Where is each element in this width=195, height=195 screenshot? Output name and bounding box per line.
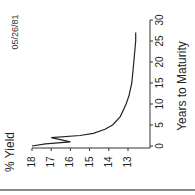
- chart-date-title: 05/26/81: [10, 14, 20, 49]
- y-tick-label: 18: [26, 156, 37, 168]
- x-tick-label: 25: [154, 35, 165, 47]
- x-tick-label: 10: [154, 98, 165, 110]
- x-tick-label: 15: [154, 77, 165, 89]
- x-axis-title: Years to Maturity: [175, 41, 189, 131]
- x-tick-label: 5: [154, 122, 165, 128]
- x-tick-label: 0: [154, 143, 165, 149]
- axes: 181716151413051015202530: [26, 14, 165, 168]
- x-tick-label: 20: [154, 56, 165, 68]
- y-tick-label: 13: [122, 156, 133, 168]
- y-tick-label: 16: [64, 156, 75, 168]
- x-tick-label: 30: [154, 14, 165, 26]
- y-tick-label: 17: [45, 156, 56, 168]
- yield-curve-chart: 181716151413051015202530 05/26/81 % Yiel…: [0, 0, 195, 195]
- y-tick-label: 15: [84, 156, 95, 168]
- yield-curve-line: [32, 33, 136, 146]
- bottom-divider: [0, 189, 195, 191]
- y-axis-title: % Yield: [3, 132, 17, 172]
- y-tick-label: 14: [103, 156, 114, 168]
